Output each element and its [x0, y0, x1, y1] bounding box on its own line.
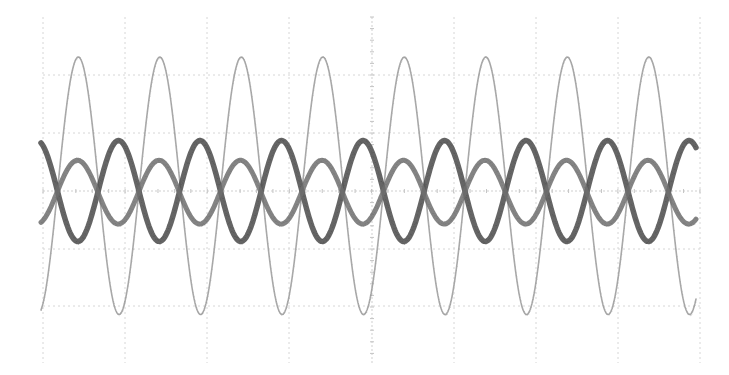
trace-3-medium: [41, 158, 696, 227]
waveform-traces: [41, 56, 696, 316]
waveform-plot: [0, 0, 729, 375]
waveform-line: [41, 160, 696, 224]
